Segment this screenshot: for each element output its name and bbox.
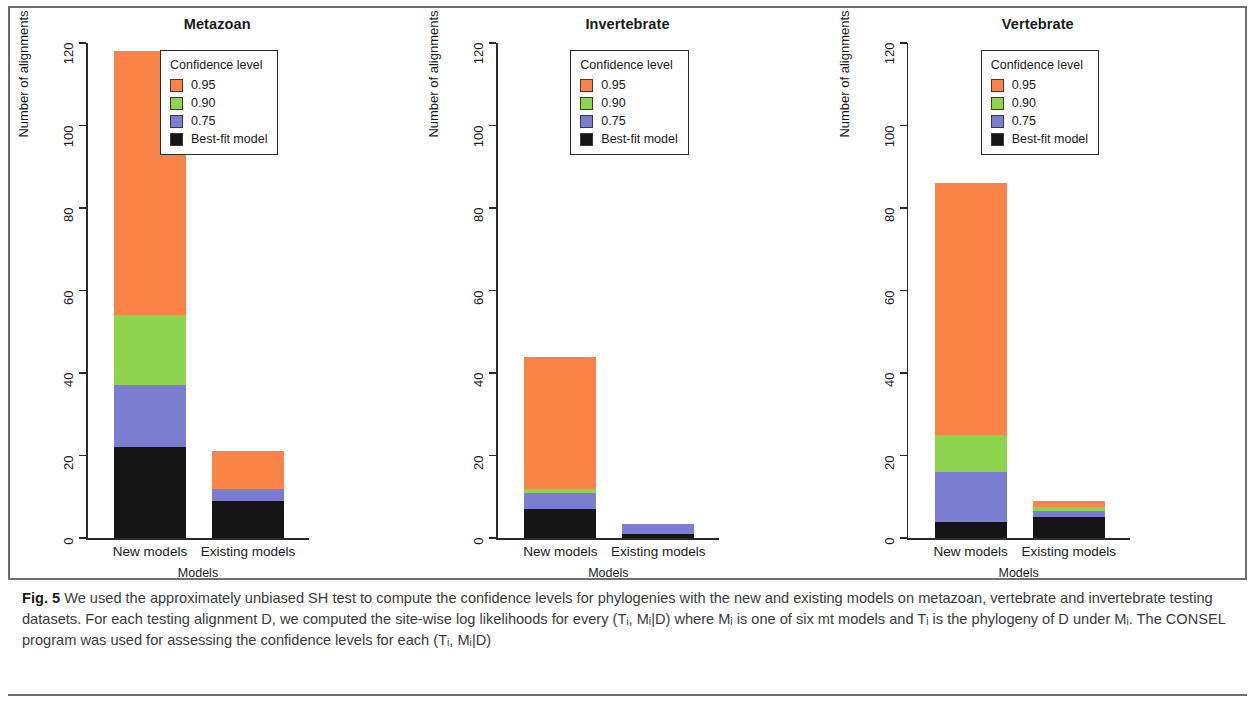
bar-segment[interactable] — [524, 509, 596, 538]
bar-segment[interactable] — [524, 357, 596, 489]
x-axis-tick-label: Existing models — [600, 544, 716, 559]
y-axis-tick-label: 60 — [61, 290, 76, 350]
legend-item[interactable]: 0.90 — [170, 96, 267, 110]
bar-segment[interactable] — [114, 385, 186, 447]
legend-title: Confidence level — [580, 58, 677, 72]
stacked-bar[interactable] — [1033, 501, 1105, 538]
bar-segment[interactable] — [1033, 501, 1105, 507]
y-axis-tick-label: 40 — [471, 373, 486, 433]
legend-swatch-icon — [580, 79, 593, 92]
y-axis-label: Number of alignments — [426, 0, 441, 184]
y-axis-tick-label: 80 — [61, 208, 76, 268]
stacked-bar[interactable] — [935, 183, 1007, 538]
chart-legend: Confidence level0.950.900.75Best-fit mod… — [981, 50, 1099, 155]
y-axis-tick — [900, 290, 907, 292]
bar-segment[interactable] — [1033, 507, 1105, 511]
legend-item[interactable]: 0.75 — [170, 114, 267, 128]
legend-swatch-icon — [991, 133, 1004, 146]
caption-label: Fig. 5 — [22, 590, 60, 606]
legend-item[interactable]: Best-fit model — [170, 132, 267, 146]
legend-item[interactable]: 0.90 — [580, 96, 677, 110]
y-axis-tick — [489, 125, 496, 127]
legend-item-label: Best-fit model — [1012, 132, 1088, 146]
legend-item[interactable]: 0.95 — [991, 78, 1088, 92]
bar-segment[interactable] — [1033, 517, 1105, 538]
y-axis-tick — [79, 537, 86, 539]
y-axis-tick — [79, 42, 86, 44]
y-axis-tick — [489, 42, 496, 44]
legend-swatch-icon — [170, 79, 183, 92]
bar-segment[interactable] — [935, 522, 1007, 539]
y-axis-tick-label: 120 — [61, 43, 76, 103]
y-axis-tick — [900, 455, 907, 457]
legend-item[interactable]: Best-fit model — [580, 132, 677, 146]
chart-panel-invertebrate: InvertebrateNumber of alignments02040608… — [422, 10, 832, 576]
legend-item-label: 0.95 — [191, 78, 215, 92]
legend-item-label: 0.90 — [191, 96, 215, 110]
bar-segment[interactable] — [114, 315, 186, 385]
legend-item[interactable]: 0.95 — [170, 78, 267, 92]
x-axis-label: Models — [496, 566, 720, 580]
legend-swatch-icon — [170, 133, 183, 146]
legend-item[interactable]: Best-fit model — [991, 132, 1088, 146]
bar-segment[interactable] — [935, 435, 1007, 472]
y-axis-tick — [79, 455, 86, 457]
y-axis-tick-label: 20 — [61, 455, 76, 515]
y-axis-label: Number of alignments — [837, 0, 852, 184]
bar-segment[interactable] — [622, 524, 694, 534]
legend-title: Confidence level — [991, 58, 1088, 72]
x-axis-label: Models — [907, 566, 1131, 580]
y-axis-tick-label: 100 — [881, 125, 896, 185]
y-axis-tick — [79, 372, 86, 374]
y-axis-tick-label: 120 — [881, 43, 896, 103]
legend-item[interactable]: 0.95 — [580, 78, 677, 92]
caption-body: We used the approximately unbiased SH te… — [22, 590, 1225, 648]
y-axis-tick-label: 120 — [471, 43, 486, 103]
y-axis-tick — [900, 42, 907, 44]
bar-segment[interactable] — [935, 183, 1007, 435]
frame-rule-left — [8, 6, 10, 580]
x-axis-line — [907, 538, 1130, 540]
bar-segment[interactable] — [212, 451, 284, 488]
legend-item[interactable]: 0.90 — [991, 96, 1088, 110]
stacked-bar[interactable] — [524, 357, 596, 539]
chart-legend: Confidence level0.950.900.75Best-fit mod… — [570, 50, 688, 155]
legend-item-label: 0.75 — [191, 114, 215, 128]
figure-caption: Fig. 5 We used the approximately unbiase… — [22, 588, 1234, 651]
stacked-bar[interactable] — [212, 451, 284, 538]
y-axis-tick-label: 100 — [471, 125, 486, 185]
legend-swatch-icon — [991, 115, 1004, 128]
y-axis-tick — [79, 207, 86, 209]
x-axis-line — [496, 538, 719, 540]
legend-swatch-icon — [170, 115, 183, 128]
legend-item-label: 0.95 — [1012, 78, 1036, 92]
y-axis-tick — [489, 455, 496, 457]
bar-segment[interactable] — [212, 501, 284, 538]
y-axis-tick — [900, 125, 907, 127]
legend-item[interactable]: 0.75 — [580, 114, 677, 128]
bar-segment[interactable] — [935, 472, 1007, 522]
figure-container: MetazoanNumber of alignments020406080100… — [0, 0, 1255, 704]
chart-panel-vertebrate: VertebrateNumber of alignments0204060801… — [833, 10, 1243, 576]
y-axis-tick — [489, 207, 496, 209]
bar-segment[interactable] — [524, 489, 596, 493]
y-axis-tick — [79, 125, 86, 127]
y-axis-tick-label: 80 — [881, 208, 896, 268]
bar-segment[interactable] — [114, 447, 186, 538]
legend-swatch-icon — [580, 97, 593, 110]
stacked-bar[interactable] — [622, 524, 694, 538]
bar-segment[interactable] — [1033, 511, 1105, 517]
bar-segment[interactable] — [212, 489, 284, 501]
legend-item[interactable]: 0.75 — [991, 114, 1088, 128]
chart-panels: MetazoanNumber of alignments020406080100… — [12, 10, 1243, 576]
y-axis-tick-label: 80 — [471, 208, 486, 268]
y-axis-label: Number of alignments — [16, 0, 31, 184]
bar-segment[interactable] — [524, 493, 596, 510]
y-axis-tick-label: 60 — [881, 290, 896, 350]
y-axis-tick — [489, 537, 496, 539]
bar-segment[interactable] — [622, 534, 694, 538]
y-axis-tick — [900, 537, 907, 539]
x-axis-label: Models — [86, 566, 310, 580]
frame-rule-top — [8, 6, 1247, 8]
legend-item-label: Best-fit model — [601, 132, 677, 146]
